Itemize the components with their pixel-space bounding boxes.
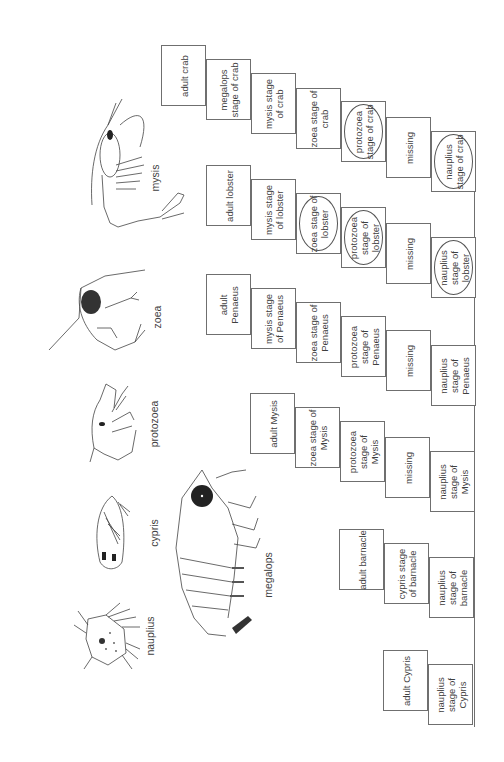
stage-box-circled: protozoea stage of crab (341, 101, 386, 162)
label-cypris: cypris (148, 519, 160, 546)
stage-box: protozoea stage of Mysis (340, 421, 385, 482)
megalops-larva-icon (172, 468, 262, 643)
stage-box-circled: nauplius stage of lobster (431, 237, 476, 298)
cypris-illustration (92, 492, 132, 572)
stage-box: adult lobster (206, 165, 251, 226)
stage-box: cypris stage of barnacle (384, 543, 429, 604)
stage-box: zoea stage of Penaeus (296, 302, 341, 363)
nauplius-illustration (70, 603, 142, 673)
protozoea-illustration (82, 382, 142, 467)
stage-box-circled: zoea stage of lobster (296, 193, 341, 254)
protozoea-larva-icon (82, 382, 142, 467)
stage-box: nauplius stage of Cypris (428, 664, 473, 725)
label-nauplius: nauplius (144, 616, 156, 655)
stage-box-circled: protozoea stage of lobster (341, 207, 386, 268)
stage-box-missing: missing (385, 437, 430, 498)
cypris-larva-icon (92, 492, 132, 572)
stage-box: protozoea stage of Penaeus (341, 316, 386, 377)
stage-box-missing: missing (386, 330, 431, 391)
stage-box: mysis stage of lobster (251, 179, 296, 240)
zoea-larva-icon (45, 268, 155, 358)
nauplius-larva-icon (70, 603, 142, 673)
label-protozoea: protozoea (148, 401, 160, 448)
stage-box: nauplius stage of Penaeus (431, 345, 476, 406)
stage-box: mysis stage of crab (251, 73, 296, 134)
stage-box-missing: missing (386, 117, 431, 178)
stage-box: zoea stage of Mysis (295, 407, 340, 468)
mysis-larva-icon (80, 95, 190, 235)
stage-box: nauplius stage of Mysis (430, 451, 475, 512)
zoea-illustration (45, 268, 155, 358)
label-mysis: mysis (149, 165, 161, 192)
stage-box: mysis stage of Penaeus (251, 288, 296, 349)
stage-box: zoea stage of crab (296, 88, 341, 149)
nauplius-baseline (474, 131, 475, 727)
mysis-illustration (80, 95, 190, 235)
stage-box-missing: missing (386, 223, 431, 284)
stage-box: megalops stage of crab (206, 59, 251, 120)
stage-box: adult crab (161, 45, 206, 106)
stage-box: adult Penaeus (206, 274, 251, 335)
stage-box-circled: nauplius stage of crab (431, 131, 476, 192)
stage-box: adult Mysis (250, 393, 295, 454)
stage-box: adult barnacle (339, 529, 384, 590)
megalops-illustration (172, 468, 262, 643)
label-zoea: zoea (151, 306, 163, 329)
stage-box: adult Cypris (383, 650, 428, 711)
label-megalops: megalops (262, 552, 274, 598)
stage-box: nauplius stage of barnacle (429, 557, 474, 618)
diagram-canvas: mysis zoea protozoea (0, 0, 504, 762)
